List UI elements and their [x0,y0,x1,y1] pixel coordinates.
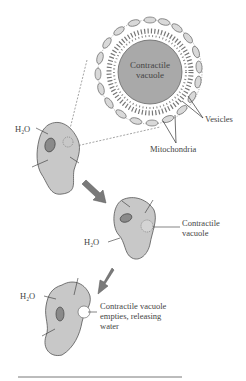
label-line: Contractile [126,60,174,70]
mitochondria-label: Mitochondria [150,144,196,154]
label-line: empties, releasing [100,311,166,321]
label-line: vacuole [126,70,174,80]
cell-stage-1 [32,122,79,194]
cell-stage-2 [108,198,180,259]
water-label-stage-1: H₂O [15,124,30,134]
arrow-stage-2-to-3 [98,268,114,294]
vacuole-empties-label: Contractile vacuole empties, releasing w… [100,301,166,331]
magnified-vacuole-label: Contractile vacuole [126,60,174,80]
magnified-vacuole-view [95,17,203,143]
water-label-stage-2: H₂O [84,237,99,247]
label-line: Contractile vacuole [100,301,166,311]
contractile-vacuole-label-stage-2: Contractile vacuole [182,218,220,238]
arrow-stage-1-to-2 [82,180,106,203]
label-line: vacuole [182,228,220,238]
label-line: Contractile [182,218,220,228]
water-label-stage-3: H₂O [20,291,35,301]
vesicles-label: Vesicles [205,114,233,124]
cell-stage-3 [42,278,97,356]
label-line: water [100,321,166,331]
